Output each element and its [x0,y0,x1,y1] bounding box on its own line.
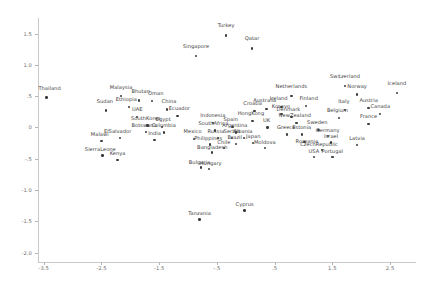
y-tick-mark [35,221,38,222]
x-tick-label: -1.5 [147,265,171,271]
x-tick-label: -2.5 [89,265,113,271]
data-point [119,137,121,139]
data-point [367,123,369,125]
data-point [105,109,107,111]
data-point [153,139,155,141]
y-tick-mark [35,96,38,97]
data-point-label: Finland [299,96,318,101]
data-point [163,131,165,133]
data-point [176,115,178,117]
data-point-label: Iceland [388,81,407,86]
data-point [200,166,202,168]
data-point [116,159,118,161]
data-point [313,156,315,158]
x-tick-label: -.5 [205,265,229,271]
data-point [225,34,227,36]
x-tick-label: 2.5 [378,265,402,271]
data-point-label: HongKong [238,111,264,116]
data-point [235,143,237,145]
y-tick-label: 0 [10,124,32,130]
data-point [305,105,307,107]
data-point-label: India [148,131,161,136]
data-point [145,131,147,133]
data-point-label: France [360,114,377,119]
data-point [138,99,140,101]
data-point-label: Oman [148,91,164,96]
data-point-label: Latvia [349,136,365,141]
y-tick-mark [35,34,38,35]
data-point [251,120,253,122]
data-point [264,147,266,149]
data-point [243,137,245,139]
data-point [344,85,346,87]
data-point-label: UAE [132,107,143,112]
data-point [265,108,267,110]
data-point-label: Hungary [199,161,221,166]
data-point [266,126,268,128]
data-point [356,93,358,95]
data-point-label: Estonia [292,125,311,130]
y-tick-label: -1.0 [10,187,32,193]
data-point-label: China [162,99,177,104]
data-point-label: CzechRepublic [300,142,338,147]
data-point-label: Ethiopia [116,97,137,102]
y-tick-mark [35,65,38,66]
data-point-label: Moldova [254,140,276,145]
data-point-label: Portugal [322,149,344,154]
data-point-label: Sudan [97,99,113,104]
data-point [290,95,292,97]
data-point-label: Malaysia [110,85,133,90]
data-point-label: Croatia [243,101,262,106]
data-point-label: Netherlands [276,84,308,89]
data-point [251,47,253,49]
data-point [243,209,245,211]
x-tick-label: -3.5 [32,265,56,271]
x-tick-label: .5 [263,265,287,271]
data-point-label: Italy [338,99,349,104]
y-tick-label: 1.0 [10,62,32,68]
data-point-label: Israel [324,134,338,139]
data-point [211,151,213,153]
scatter-plot: -3.5-2.5-1.5-.5.51.52.5 1.51.0.50-.5-1.0… [0,0,423,284]
data-point-label: Qatar [245,36,260,41]
data-point [338,117,340,119]
y-axis-line [38,18,39,262]
data-point-label: Cyprus [236,202,254,207]
data-point [198,218,200,220]
data-point-label: Ecuador [169,106,190,111]
data-point [128,106,130,108]
data-point-label: Switzerland [330,74,360,79]
data-point-label: Norway [347,84,367,89]
data-point-label: Russia [207,129,224,134]
data-point [100,140,102,142]
data-point-label: USA [308,149,319,154]
y-tick-label: -.5 [10,156,32,162]
data-point [396,92,398,94]
y-tick-label: -2.0 [10,250,32,256]
data-point-label: NewZealand [279,113,311,118]
data-point [101,154,103,156]
data-point [331,156,333,158]
data-point-label: UK [263,118,270,123]
data-point [45,96,47,98]
data-point [151,100,153,102]
y-tick-mark [35,159,38,160]
data-point-label: Thailand [38,86,60,91]
x-tick-label: 1.5 [320,265,344,271]
y-tick-mark [35,253,38,254]
y-tick-label: -1.5 [10,218,32,224]
y-tick-mark [35,127,38,128]
data-point-label: Belgium [327,108,348,113]
data-point [286,133,288,135]
data-point [379,113,381,115]
y-tick-label: 1.5 [10,31,32,37]
data-point [356,144,358,146]
data-point-label: Colombia [152,123,176,128]
data-point-label: Malawi [91,132,109,137]
data-point-label: Bangladesh [197,145,227,150]
data-point [301,133,303,135]
data-point [208,168,210,170]
y-tick-mark [35,190,38,191]
data-point-label: Tanzania [188,211,211,216]
data-point-label: Kenya [110,151,126,156]
